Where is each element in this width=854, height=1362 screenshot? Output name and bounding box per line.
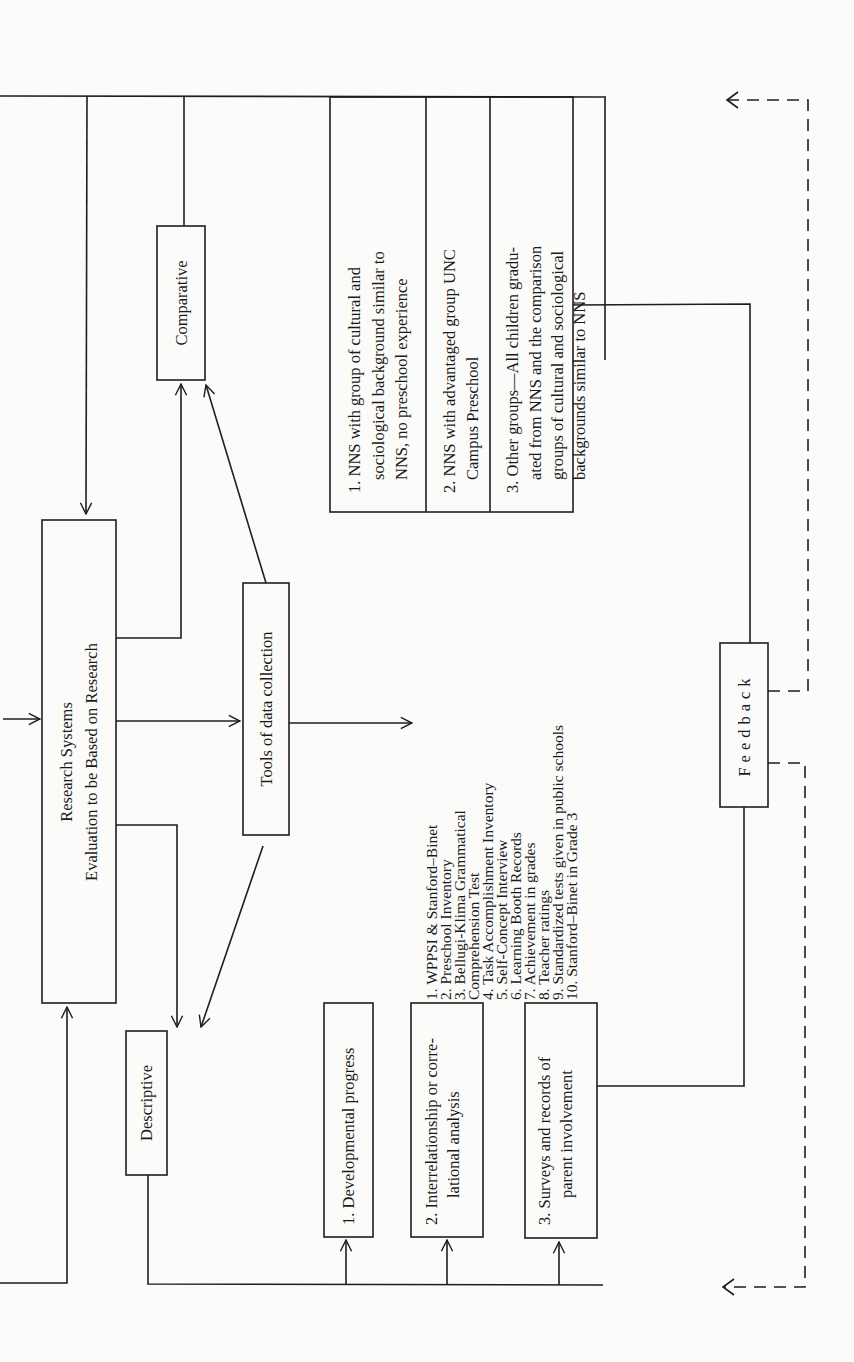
research-systems-subtitle: Evaluation to be Based on Research	[82, 642, 101, 881]
svg-text:3. Surveys and records of: 3. Surveys and records of	[535, 1056, 554, 1225]
comparison-group-3: 3. Other groups—All children gradu- ated…	[503, 246, 589, 493]
line-surveys-to-feedback	[597, 807, 744, 1086]
arrow-research-to-comparative	[116, 384, 181, 638]
svg-text:sociological background simila: sociological background similar to	[369, 251, 388, 480]
research-systems-title: Research Systems	[57, 702, 76, 822]
research-systems-box: Research Systems Evaluation to be Based …	[42, 520, 116, 1003]
svg-text:Campus Preschool: Campus Preschool	[463, 356, 482, 480]
comparison-group-1: 1. NNS with group of cultural and sociol…	[345, 251, 411, 493]
svg-text:1. NNS with group of cultural: 1. NNS with group of cultural and	[345, 266, 364, 493]
comparative-label: Comparative	[172, 260, 191, 345]
comparison-groups-table: 1. NNS with group of cultural and sociol…	[330, 97, 589, 512]
svg-text:2. NNS with advantaged group U: 2. NNS with advantaged group UNC	[440, 249, 459, 493]
svg-text:ated from NNS and the comparis: ated from NNS and the comparison	[526, 246, 545, 480]
evaluation-flow-diagram: Research Systems Evaluation to be Based …	[0, 0, 854, 1362]
svg-text:3. Other groups—All children g: 3. Other groups—All children gradu-	[503, 247, 522, 493]
svg-text:1. Developmental progress: 1. Developmental progress	[339, 1048, 358, 1225]
tools-box: Tools of data collection	[243, 583, 289, 835]
line-groups-to-feedback	[573, 304, 750, 643]
svg-text:NNS, no preschool experience: NNS, no preschool experience	[392, 278, 411, 480]
feedback-label: Feedback	[735, 673, 754, 776]
arrow-tools-to-descriptive	[201, 846, 263, 1027]
descriptive-box: Descriptive	[126, 1031, 167, 1175]
arrow-to-research-systems	[86, 96, 87, 514]
tools-list-item: 10. Stanford–Binet in Grade 3	[563, 812, 580, 1000]
descriptive-item-1: 1. Developmental progress	[324, 1003, 373, 1237]
svg-text:groups of cultural and sociolo: groups of cultural and sociological	[548, 250, 567, 480]
comparative-box: Comparative	[157, 226, 205, 380]
left-return-arrow	[0, 1007, 67, 1283]
feedback-box: Feedback	[720, 643, 768, 807]
descriptive-item-3: 3. Surveys and records of parent involve…	[525, 1003, 597, 1238]
svg-text:2. Interrelationship or corre: 2. Interrelationship or corre-	[422, 1038, 441, 1225]
descriptive-item-2: 2. Interrelationship or corre- lational …	[411, 1003, 483, 1237]
svg-text:backgrounds similar to NNS: backgrounds similar to NNS	[570, 292, 589, 480]
descriptive-label: Descriptive	[137, 1065, 156, 1141]
arrow-tools-to-comparative	[206, 385, 266, 583]
dashed-feedback-top	[728, 100, 808, 691]
dashed-feedback-bottom	[724, 763, 805, 1287]
tools-label: Tools of data collection	[257, 631, 276, 786]
tools-list: 1. WPPSI & Stanford–Binet 2. Preschool I…	[423, 725, 580, 1000]
svg-text:parent involvement: parent involvement	[557, 1070, 576, 1198]
arrow-research-to-descriptive	[116, 825, 177, 1027]
svg-text:lational analysis: lational analysis	[444, 1091, 463, 1198]
comparison-group-2: 2. NNS with advantaged group UNC Campus …	[440, 249, 482, 493]
